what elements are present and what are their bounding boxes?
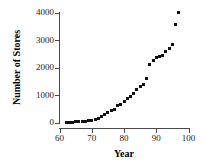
- y-tick-label: 4000: [36, 8, 54, 17]
- y-tick-label: 2000: [36, 63, 54, 72]
- data-point: [113, 108, 116, 111]
- data-point: [161, 54, 164, 57]
- y-tick-label: 3000: [36, 36, 54, 45]
- y-tick-label: 1000: [36, 91, 54, 100]
- data-point: [135, 88, 138, 91]
- data-point: [129, 95, 132, 98]
- data-point: [164, 50, 167, 53]
- data-point: [139, 85, 142, 88]
- data-point: [145, 77, 148, 80]
- y-tick-mark: [55, 40, 60, 41]
- data-point: [148, 63, 151, 66]
- y-tick-mark: [55, 13, 60, 14]
- data-point: [171, 43, 174, 46]
- data-point: [132, 92, 135, 95]
- x-tick-label: 90: [145, 134, 167, 143]
- y-tick-mark: [55, 123, 60, 124]
- x-tick-label: 70: [81, 134, 103, 143]
- data-point: [174, 23, 177, 26]
- data-point: [119, 103, 122, 106]
- x-axis-title: Year: [59, 148, 189, 159]
- x-tick-label: 100: [178, 134, 200, 143]
- data-point: [152, 59, 155, 62]
- x-tick-label: 80: [113, 134, 135, 143]
- y-tick-mark: [55, 95, 60, 96]
- data-point: [142, 83, 145, 86]
- data-point: [168, 47, 171, 50]
- y-tick-mark: [55, 68, 60, 69]
- scatter-chart: 01000200030004000 60708090100 Number of …: [0, 0, 204, 168]
- data-point: [177, 11, 180, 14]
- x-tick-label: 60: [49, 134, 71, 143]
- y-tick-label: 0: [50, 118, 55, 127]
- y-axis-title: Number of Stores: [11, 14, 22, 122]
